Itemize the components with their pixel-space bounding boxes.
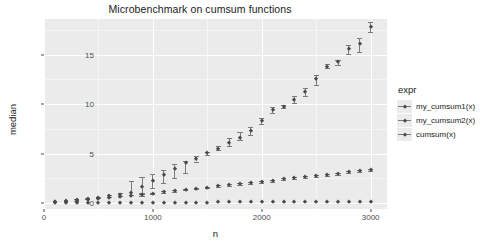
data-point xyxy=(357,200,362,205)
plot-panel xyxy=(44,19,387,209)
legend-title: expr xyxy=(398,84,490,95)
data-point xyxy=(227,200,232,205)
data-point xyxy=(63,200,68,205)
y-axis-tick-label: 10 xyxy=(85,100,94,109)
data-point xyxy=(150,200,155,205)
y-axis-tick-mark xyxy=(41,104,44,105)
legend: expr my_cumsum1(x)my_cumsum2(x)cumsum(x) xyxy=(397,84,490,142)
data-point xyxy=(346,200,351,205)
data-point xyxy=(238,200,243,205)
data-point xyxy=(172,200,177,205)
data-point xyxy=(74,200,79,205)
y-axis-tick-mark xyxy=(41,153,44,154)
data-point xyxy=(314,200,319,205)
legend-key-icon xyxy=(397,114,412,127)
data-point xyxy=(303,200,308,205)
x-axis-tick-mark xyxy=(44,209,45,212)
data-point xyxy=(194,200,199,205)
x-axis-tick-label: 3000 xyxy=(362,213,380,222)
data-point xyxy=(161,200,166,205)
data-series xyxy=(44,19,387,209)
x-axis-tick-label: 1000 xyxy=(144,213,162,222)
legend-item[interactable]: my_cumsum2(x) xyxy=(397,114,490,127)
x-axis-tick-mark xyxy=(152,209,153,212)
y-axis-tick-mark xyxy=(41,203,44,204)
legend-item-label: my_cumsum1(x) xyxy=(416,102,475,111)
data-point xyxy=(336,200,341,205)
x-axis-tick-mark xyxy=(370,209,371,212)
data-point xyxy=(368,200,373,205)
x-axis-tick-label: 0 xyxy=(42,213,46,222)
data-point xyxy=(248,200,253,205)
data-point xyxy=(183,200,188,205)
data-point xyxy=(281,200,286,205)
data-point xyxy=(205,200,210,205)
y-axis-tick-label: 5 xyxy=(90,149,94,158)
data-point xyxy=(52,200,57,205)
chart-root: Microbenchmark on cumsum functions 05101… xyxy=(0,0,490,252)
legend-key-icon xyxy=(397,128,412,141)
x-axis-title: n xyxy=(44,228,387,239)
y-axis-tick-mark xyxy=(41,54,44,55)
legend-key-icon xyxy=(397,100,412,113)
data-point xyxy=(270,200,275,205)
y-axis-tick-label: 0 xyxy=(90,199,94,208)
legend-items: my_cumsum1(x)my_cumsum2(x)cumsum(x) xyxy=(397,100,490,141)
data-point xyxy=(216,200,221,205)
y-axis-tick-label: 15 xyxy=(85,50,94,59)
data-point xyxy=(140,200,145,205)
data-point xyxy=(107,200,112,205)
data-point xyxy=(96,200,101,205)
legend-item[interactable]: cumsum(x) xyxy=(397,128,490,141)
chart-title: Microbenchmark on cumsum functions xyxy=(0,3,400,15)
data-point xyxy=(118,200,123,205)
legend-item[interactable]: my_cumsum1(x) xyxy=(397,100,490,113)
y-axis-title: median xyxy=(7,90,18,150)
x-axis-tick-mark xyxy=(261,209,262,212)
data-point xyxy=(325,200,330,205)
data-point xyxy=(129,200,134,205)
x-axis-tick-label: 2000 xyxy=(253,213,271,222)
legend-item-label: my_cumsum2(x) xyxy=(416,116,475,125)
legend-item-label: cumsum(x) xyxy=(416,130,456,139)
data-point xyxy=(259,200,264,205)
data-point xyxy=(292,200,297,205)
